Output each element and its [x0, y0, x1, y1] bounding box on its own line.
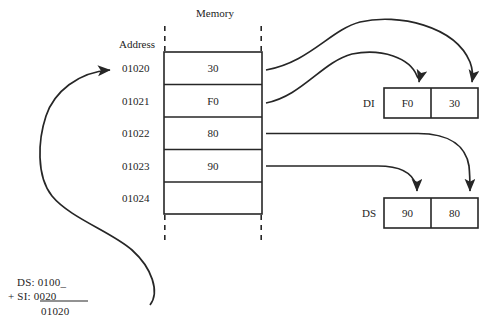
diagram-canvas: Memory Address 01020 01021 01022 01023 0… [0, 0, 493, 334]
register-di-high-byte: F0 [384, 98, 431, 109]
address-label-row-3: 01022 [122, 128, 150, 139]
arrow-mem01023-to-ds-high [266, 166, 417, 191]
address-label-row-2: 01021 [122, 96, 150, 107]
address-column-title: Address [119, 39, 155, 50]
arrow-mem01020-to-di-low [266, 19, 473, 82]
calculation-ds-line: DS: 0100_ [17, 277, 66, 288]
memory-cell-value-row-3: 80 [164, 128, 262, 139]
address-label-row-5: 01024 [122, 193, 150, 204]
arrow-mem01021-to-di-high [266, 52, 419, 103]
memory-title: Memory [196, 8, 234, 19]
memory-cell-value-row-2: F0 [164, 96, 262, 107]
calculation-result: 01020 [41, 306, 70, 317]
register-ds-high-byte: 90 [384, 208, 431, 219]
register-ds-low-byte: 80 [431, 208, 478, 219]
memory-cell-value-row-4: 90 [164, 161, 262, 172]
arrow-mem01022-to-ds-low [266, 134, 470, 192]
calculation-si-line: + SI: 0020 [8, 291, 57, 302]
register-label-di: DI [363, 98, 375, 109]
address-label-row-1: 01020 [122, 63, 150, 74]
address-label-row-4: 01023 [122, 161, 150, 172]
memory-cell-value-row-1: 30 [164, 63, 262, 74]
register-label-ds: DS [362, 208, 376, 219]
register-di-low-byte: 30 [431, 98, 478, 109]
